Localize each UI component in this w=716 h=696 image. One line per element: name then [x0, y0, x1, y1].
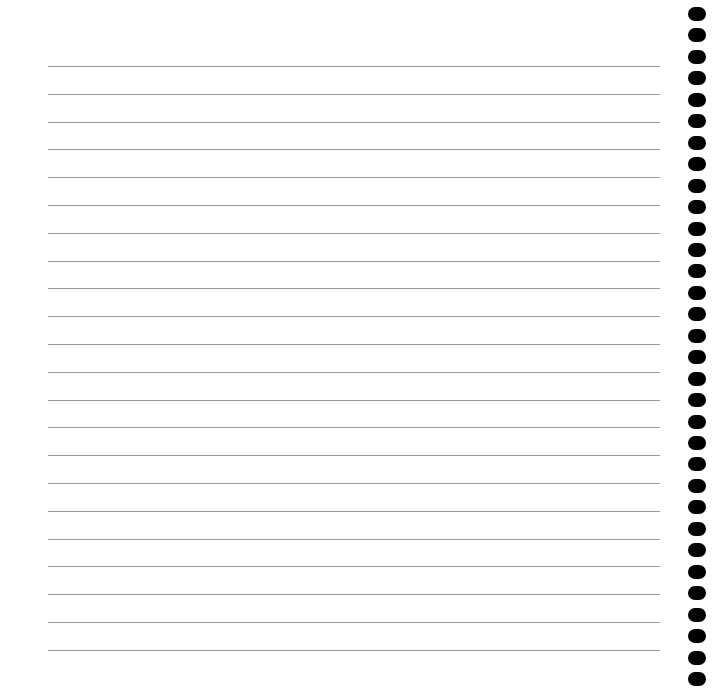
ruled-line [48, 149, 660, 150]
binding-hole-icon [688, 672, 706, 686]
binding-hole-icon [688, 543, 706, 557]
ruled-line [48, 94, 660, 95]
binding-hole-icon [688, 415, 706, 429]
ruled-line [48, 483, 660, 484]
binding-hole-icon [688, 243, 706, 257]
binding-hole-icon [688, 350, 706, 364]
binding-hole-icon [688, 307, 706, 321]
ruled-line [48, 288, 660, 289]
binding-hole-icon [688, 50, 706, 64]
ruled-line [48, 66, 660, 67]
binding-hole-icon [688, 457, 706, 471]
binding-hole-icon [688, 157, 706, 171]
binding-hole-icon [688, 28, 706, 42]
ruled-line [48, 539, 660, 540]
binding-hole-icon [688, 93, 706, 107]
binding-hole-icon [688, 629, 706, 643]
binding-hole-icon [688, 651, 706, 665]
binding-hole-icon [688, 608, 706, 622]
ruled-line [48, 205, 660, 206]
binding-hole-icon [688, 522, 706, 536]
ruled-line [48, 650, 660, 651]
ruled-line [48, 316, 660, 317]
ruled-line [48, 372, 660, 373]
binding-hole-icon [688, 264, 706, 278]
binding-hole-icon [688, 7, 706, 21]
notebook-page [0, 0, 716, 696]
ruled-line [48, 177, 660, 178]
binding-hole-icon [688, 436, 706, 450]
binding-hole-icon [688, 222, 706, 236]
ruled-line [48, 511, 660, 512]
ruled-line [48, 400, 660, 401]
ruled-line [48, 594, 660, 595]
ruled-line [48, 455, 660, 456]
ruled-line [48, 427, 660, 428]
ruled-line [48, 122, 660, 123]
binding-hole-icon [688, 136, 706, 150]
binding-hole-icon [688, 114, 706, 128]
binding-hole-icon [688, 500, 706, 514]
binding-hole-icon [688, 179, 706, 193]
ruled-line [48, 261, 660, 262]
binding-hole-icon [688, 329, 706, 343]
binding-hole-icon [688, 565, 706, 579]
binding-hole-icon [688, 286, 706, 300]
binding-hole-icon [688, 200, 706, 214]
binding-hole-icon [688, 71, 706, 85]
binding-hole-icon [688, 372, 706, 386]
binding-hole-icon [688, 393, 706, 407]
ruled-line [48, 622, 660, 623]
ruled-line [48, 233, 660, 234]
ruled-line [48, 344, 660, 345]
ruled-line [48, 566, 660, 567]
binding-hole-icon [688, 479, 706, 493]
binding-hole-icon [688, 586, 706, 600]
